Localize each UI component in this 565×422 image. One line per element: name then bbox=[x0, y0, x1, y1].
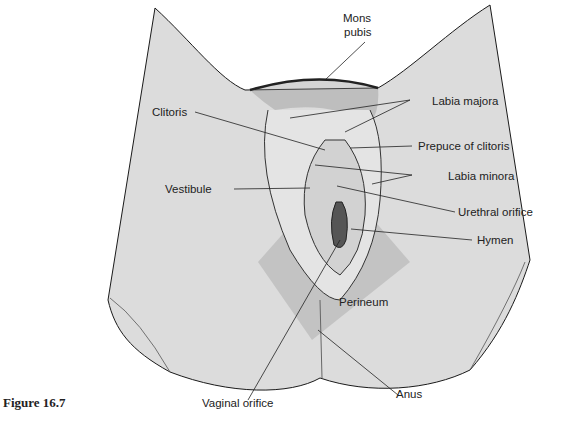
label-vaginal-orifice: Vaginal orifice bbox=[202, 397, 273, 410]
label-mons-pubis-2: pubis bbox=[344, 26, 372, 39]
label-labia-minora: Labia minora bbox=[448, 170, 514, 183]
label-perineum: Perineum bbox=[339, 296, 388, 309]
label-urethral-orifice: Urethral orifice bbox=[458, 206, 533, 219]
label-hymen: Hymen bbox=[477, 234, 513, 247]
label-anus: Anus bbox=[396, 388, 422, 401]
label-clitoris: Clitoris bbox=[152, 106, 187, 119]
label-mons-pubis-1: Mons bbox=[343, 12, 371, 25]
label-labia-majora: Labia majora bbox=[432, 95, 498, 108]
label-prepuce-of-clitoris: Prepuce of clitoris bbox=[418, 140, 509, 153]
label-vestibule: Vestibule bbox=[165, 183, 212, 196]
figure-caption: Figure 16.7 bbox=[3, 395, 66, 411]
